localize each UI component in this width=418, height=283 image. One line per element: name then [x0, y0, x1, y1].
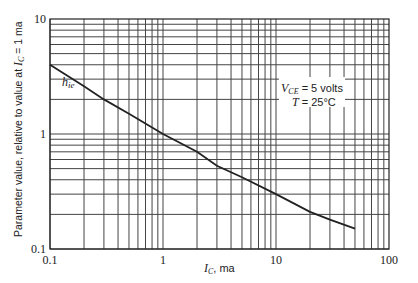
y-axis-label: Parameter value, relative to value at IC… — [11, 21, 26, 237]
x-axis-label: IC, ma — [203, 261, 236, 276]
chart: 0.1110 0.1110100 hie VCE = 5 volts T = 2… — [0, 0, 418, 283]
annotation-temp: T = 25°C — [292, 95, 336, 109]
grid — [50, 19, 389, 249]
x-tick-label: 100 — [380, 253, 398, 267]
y-tick-label: 1 — [40, 127, 46, 141]
x-tick-label: 1 — [160, 253, 166, 267]
y-tick-label: 10 — [34, 12, 46, 26]
x-tick-label: 10 — [270, 253, 282, 267]
x-tick-label: 0.1 — [43, 253, 58, 267]
y-tick-labels: 0.1110 — [31, 12, 46, 256]
